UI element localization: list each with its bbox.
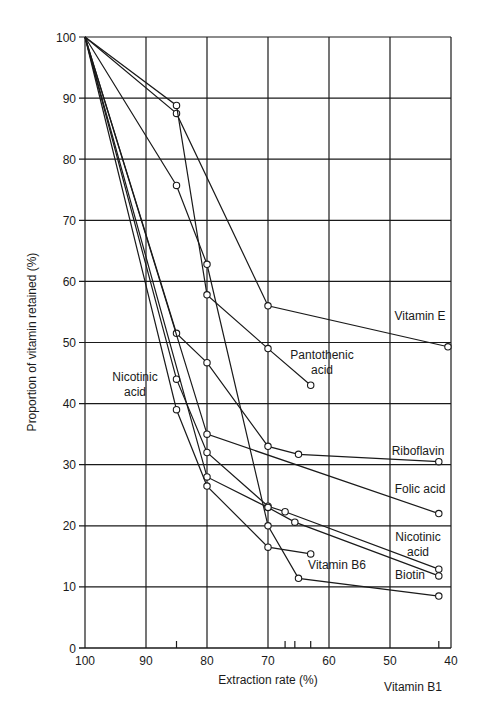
- series-label: Vitamin B6: [308, 558, 366, 572]
- y-tick-label: 40: [63, 397, 77, 411]
- y-axis-label: Proportion of vitamin retained (%): [25, 253, 39, 432]
- y-tick-label: 10: [63, 580, 77, 594]
- data-point-marker: [445, 344, 451, 350]
- data-point-marker: [265, 544, 271, 550]
- series-line: [85, 37, 311, 554]
- data-point-marker: [292, 519, 298, 525]
- data-point-marker: [295, 575, 301, 581]
- x-tick-label: 50: [383, 654, 397, 668]
- series-label: Folic acid: [395, 482, 446, 496]
- x-tick-label: 40: [444, 654, 458, 668]
- x-tick-label: 60: [322, 654, 336, 668]
- series-line: [85, 37, 439, 514]
- series-label: Vitamin B1: [384, 680, 442, 694]
- data-point-marker: [265, 443, 271, 449]
- y-tick-label: 100: [56, 31, 76, 45]
- vitamin-retention-chart: 0102030405060708090100100908070605040 Vi…: [0, 0, 480, 721]
- series-pantothenic-acid: [85, 37, 314, 388]
- y-tick-label: 30: [63, 458, 77, 472]
- series-vitamin-b6: [85, 37, 314, 557]
- data-point-marker: [204, 483, 210, 489]
- data-point-marker: [204, 359, 210, 365]
- series-label: Pantothenic: [290, 348, 353, 362]
- series-line: [85, 37, 448, 347]
- y-tick-label: 90: [63, 92, 77, 106]
- series-label: acid: [407, 545, 429, 559]
- annotation-label: Nicotinic: [112, 370, 157, 384]
- data-point-marker: [173, 182, 179, 188]
- data-point-marker: [436, 458, 442, 464]
- y-tick-label: 70: [63, 214, 77, 228]
- data-point-marker: [265, 345, 271, 351]
- series-label: Nicotinic: [395, 530, 440, 544]
- data-point-marker: [295, 451, 301, 457]
- y-tick-label: 60: [63, 275, 77, 289]
- series-label: acid: [311, 363, 333, 377]
- y-tick-label: 20: [63, 519, 77, 533]
- data-point-marker: [204, 449, 210, 455]
- data-point-marker: [308, 551, 314, 557]
- data-point-marker: [204, 261, 210, 267]
- x-axis-label: Extraction rate (%): [218, 673, 317, 687]
- grid-lines: [79, 37, 451, 648]
- x-tick-label: 80: [200, 654, 214, 668]
- data-point-marker: [265, 504, 271, 510]
- annotation-label: acid: [124, 385, 146, 399]
- x-tick-label: 90: [139, 654, 153, 668]
- series-label: Riboflavin: [392, 444, 445, 458]
- y-tick-label: 50: [63, 336, 77, 350]
- series-line: [85, 37, 311, 385]
- data-point-marker: [308, 382, 314, 388]
- y-tick-label: 80: [63, 153, 77, 167]
- series-labels: Vitamin EPantothenicacidVitamin B1Ribofl…: [112, 309, 445, 694]
- data-point-marker: [436, 566, 442, 572]
- data-point-marker: [204, 292, 210, 298]
- series-line: [85, 37, 439, 596]
- series-line: [85, 37, 439, 569]
- x-tick-label: 100: [75, 654, 95, 668]
- series-nicotinic-acid: [85, 37, 442, 572]
- data-point-marker: [436, 593, 442, 599]
- data-point-marker: [204, 431, 210, 437]
- data-point-marker: [265, 523, 271, 529]
- data-point-marker: [282, 509, 288, 515]
- data-point-marker: [436, 510, 442, 516]
- data-point-marker: [173, 102, 179, 108]
- x-tick-label: 70: [261, 654, 275, 668]
- series-riboflavin: [85, 37, 442, 465]
- series-vitamin-b1: [85, 37, 442, 599]
- data-point-marker: [436, 573, 442, 579]
- series-label: Biotin: [395, 568, 425, 582]
- series-biotin: [85, 37, 442, 579]
- series-folic-acid: [85, 37, 442, 517]
- data-point-marker: [173, 407, 179, 413]
- series-label: Vitamin E: [394, 309, 445, 323]
- data-point-marker: [265, 303, 271, 309]
